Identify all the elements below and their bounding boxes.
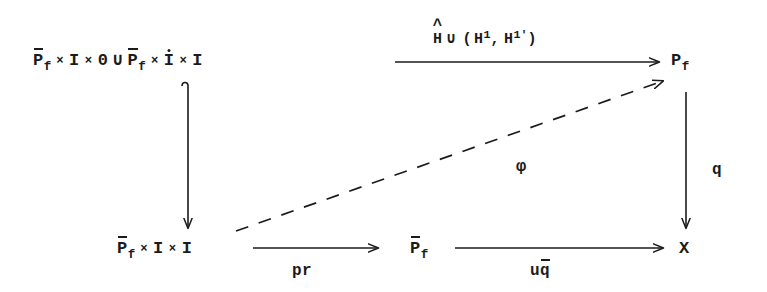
left-vertical-arrow bbox=[182, 82, 188, 228]
interval-I: I bbox=[69, 51, 80, 70]
h-hat-glyph: H bbox=[433, 32, 443, 47]
open-paren: ( bbox=[461, 31, 475, 48]
times-sign: × bbox=[146, 54, 164, 68]
interval-I-dot: I bbox=[164, 52, 175, 69]
arrow-layer bbox=[0, 0, 767, 292]
times-sign: × bbox=[80, 54, 98, 68]
interval-I: I bbox=[192, 51, 203, 70]
p-bar-glyph: P bbox=[410, 240, 421, 257]
times-sign: × bbox=[174, 54, 192, 68]
p-bar-glyph: P bbox=[33, 52, 44, 69]
interval-I: I bbox=[153, 239, 164, 258]
p-bar-glyph: P bbox=[128, 52, 139, 69]
comma: , bbox=[491, 31, 501, 48]
phi-glyph: φ bbox=[516, 157, 527, 176]
subscript-f: f bbox=[682, 60, 690, 74]
times-sign: × bbox=[51, 54, 69, 68]
interval-I: I bbox=[182, 239, 193, 258]
pr-glyph: pr bbox=[292, 262, 312, 280]
p-glyph: P bbox=[671, 51, 682, 70]
bottom-middle-object: Pf bbox=[410, 240, 428, 262]
zero-glyph: 0 bbox=[98, 51, 109, 70]
bottom-right-object: X bbox=[679, 240, 690, 257]
h-glyph: H bbox=[504, 31, 514, 48]
bottom-left-arrow-label: pr bbox=[292, 263, 312, 279]
top-right-object: Pf bbox=[671, 52, 689, 74]
bottom-left-object: Pf×I×I bbox=[117, 240, 192, 262]
union-symbol: ∪ bbox=[443, 30, 461, 48]
p-bar-glyph: P bbox=[117, 240, 128, 257]
top-arrow-label: H∪(H1,H1') bbox=[433, 30, 537, 48]
times-sign: × bbox=[135, 242, 153, 256]
subscript-f: f bbox=[421, 248, 429, 262]
right-vertical-arrow-label: q bbox=[712, 162, 722, 178]
h-glyph: H bbox=[474, 31, 484, 48]
close-paren: ) bbox=[528, 31, 538, 48]
union-symbol: ∪ bbox=[108, 50, 127, 70]
top-left-object: Pf×I×0∪Pf×I×I bbox=[33, 52, 203, 74]
u-glyph: u bbox=[530, 262, 540, 280]
bottom-right-arrow-label: uq bbox=[530, 263, 550, 279]
q-glyph: q bbox=[712, 161, 722, 179]
subscript-f: f bbox=[138, 60, 146, 74]
commutative-diagram-canvas: Pf×I×0∪Pf×I×I Pf Pf×I×I Pf X H∪(H1,H1') … bbox=[0, 0, 767, 292]
times-sign: × bbox=[164, 242, 182, 256]
diagonal-arrow-label: φ bbox=[516, 158, 527, 175]
diagonal-dashed-arrow bbox=[236, 81, 663, 231]
superscript-1-prime: 1' bbox=[514, 28, 528, 42]
superscript-1: 1 bbox=[484, 28, 491, 42]
q-bar-glyph: q bbox=[540, 263, 550, 279]
x-glyph: X bbox=[679, 239, 690, 258]
